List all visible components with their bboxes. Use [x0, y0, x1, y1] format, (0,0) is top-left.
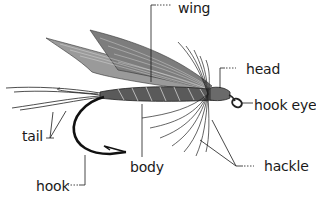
wing	[46, 30, 212, 92]
hackle-leader-1	[200, 140, 236, 166]
tail-fibers	[6, 87, 102, 110]
label-tail: tail	[22, 129, 43, 143]
head-leader	[220, 68, 225, 88]
hook	[74, 97, 126, 154]
label-wing: wing	[178, 1, 210, 15]
hackle-leader-2	[212, 120, 236, 166]
label-head: head	[246, 62, 280, 76]
head-and-eye	[210, 87, 243, 109]
label-hackle: hackle	[264, 159, 309, 173]
hook-leader	[79, 155, 85, 185]
label-hook: hook	[36, 179, 69, 193]
label-hook-eye: hook eye	[254, 98, 316, 112]
body	[100, 87, 215, 102]
fly-anatomy-diagram: wing head hook eye tail body hackle hook	[0, 0, 316, 204]
label-body: body	[130, 160, 164, 174]
